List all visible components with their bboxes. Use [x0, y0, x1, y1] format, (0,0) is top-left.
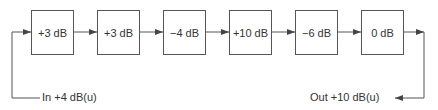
gain-stage-label: −4 dB [170, 27, 199, 39]
gain-stage-label: 0 dB [371, 27, 394, 39]
gain-stage-label: +3 dB [38, 27, 67, 39]
gain-stage-6: 0 dB [361, 10, 404, 55]
gain-stage-label: +10 dB [233, 27, 268, 39]
gain-stage-4: +10 dB [229, 10, 272, 55]
gain-stage-label: +3 dB [104, 27, 133, 39]
gain-stage-label: −6 dB [302, 27, 331, 39]
input-label: In +4 dB(u) [42, 91, 97, 103]
gain-stage-5: −6 dB [295, 10, 338, 55]
gain-stage-3: −4 dB [163, 10, 206, 55]
gain-stage-1: +3 dB [31, 10, 74, 55]
gain-stage-2: +3 dB [97, 10, 140, 55]
output-label: Out +10 dB(u) [310, 91, 379, 103]
